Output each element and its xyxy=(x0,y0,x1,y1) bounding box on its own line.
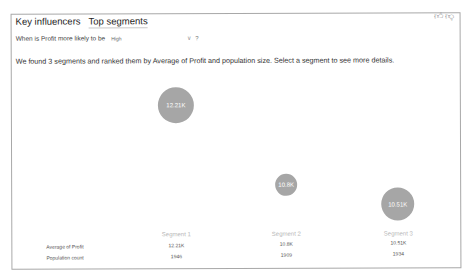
segment-3-population: 1934 xyxy=(368,250,428,256)
summary-text: We found 3 segments and ranked them by A… xyxy=(16,55,395,65)
tab-bar: Key influencers Top segments xyxy=(16,15,148,28)
bubble-label: 12.21K xyxy=(166,102,185,108)
segment-2-population: 1909 xyxy=(256,252,316,258)
help-icon[interactable]: ? xyxy=(195,35,198,41)
segment-1-label[interactable]: Segment 1 xyxy=(146,231,206,237)
bubble-label: 10.51K xyxy=(388,201,407,207)
segment-2-avg-profit: 10.8K xyxy=(256,241,316,247)
segment-1-avg-profit: 12.21K xyxy=(146,242,206,248)
row-label-avg-profit: Average of Profit xyxy=(46,244,83,250)
bubble-label: 10.8K xyxy=(278,182,294,188)
segment-1-population: 1946 xyxy=(146,253,206,259)
thumbs-up-icon[interactable]: 👍︎ xyxy=(434,11,443,21)
segment-1-bubble[interactable]: 12.21K xyxy=(158,87,194,123)
question-label: When is Profit more likely to be xyxy=(16,34,106,41)
question-row: When is Profit more likely to be High ∨ … xyxy=(16,33,199,43)
tab-key-influencers[interactable]: Key influencers xyxy=(16,16,81,29)
segment-3-label[interactable]: Segment 3 xyxy=(368,230,428,236)
segment-3-avg-profit: 10.51K xyxy=(368,239,428,245)
tab-top-segments[interactable]: Top segments xyxy=(89,15,148,28)
top-segments-visual: Key influencers Top segments 👍︎ 👎︎ When … xyxy=(11,12,462,270)
feedback-icons: 👍︎ 👎︎ xyxy=(434,11,454,21)
segment-3-bubble[interactable]: 10.51K xyxy=(381,187,414,220)
segment-2-label[interactable]: Segment 2 xyxy=(256,231,316,237)
row-label-population: Population count xyxy=(46,255,83,261)
profit-level-dropdown[interactable]: High ∨ xyxy=(111,33,191,42)
thumbs-down-icon[interactable]: 👎︎ xyxy=(445,11,454,21)
chevron-down-icon: ∨ xyxy=(187,34,191,41)
dropdown-value: High xyxy=(111,35,121,41)
segment-2-bubble[interactable]: 10.8K xyxy=(275,174,297,196)
